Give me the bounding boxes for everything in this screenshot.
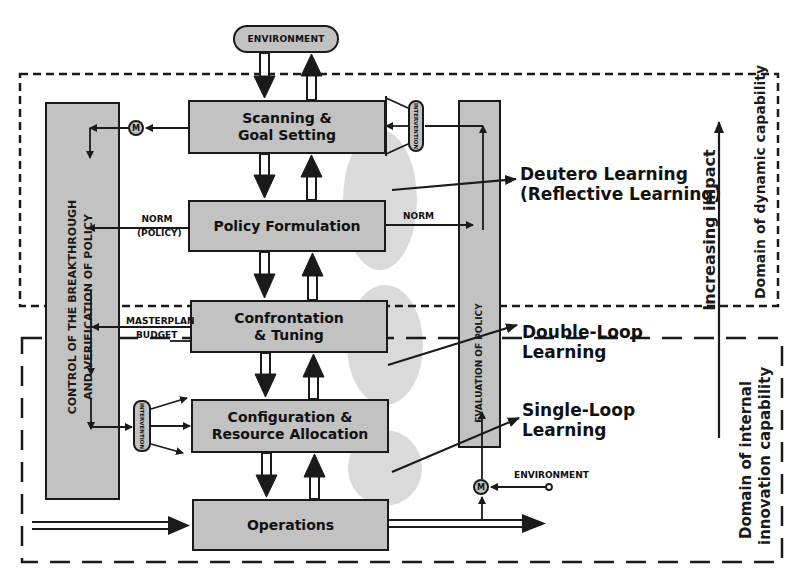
control-to-intervention-arrows: [91, 398, 190, 453]
diagram-arrows: [0, 0, 794, 573]
deutero-learning-arrow: [392, 179, 516, 190]
up-arrows: [301, 54, 325, 499]
operations-output-arrow: [389, 514, 546, 533]
evaluation-to-scanning-arrows: [386, 96, 483, 230]
double-loop-learning-arrow: [388, 325, 517, 365]
operations-input-arrow: [32, 516, 190, 535]
single-loop-learning-arrow: [392, 418, 519, 472]
scanning-to-control-arrows: [90, 128, 188, 158]
masterplan-arrows: [91, 290, 190, 375]
down-arrows: [254, 53, 277, 497]
